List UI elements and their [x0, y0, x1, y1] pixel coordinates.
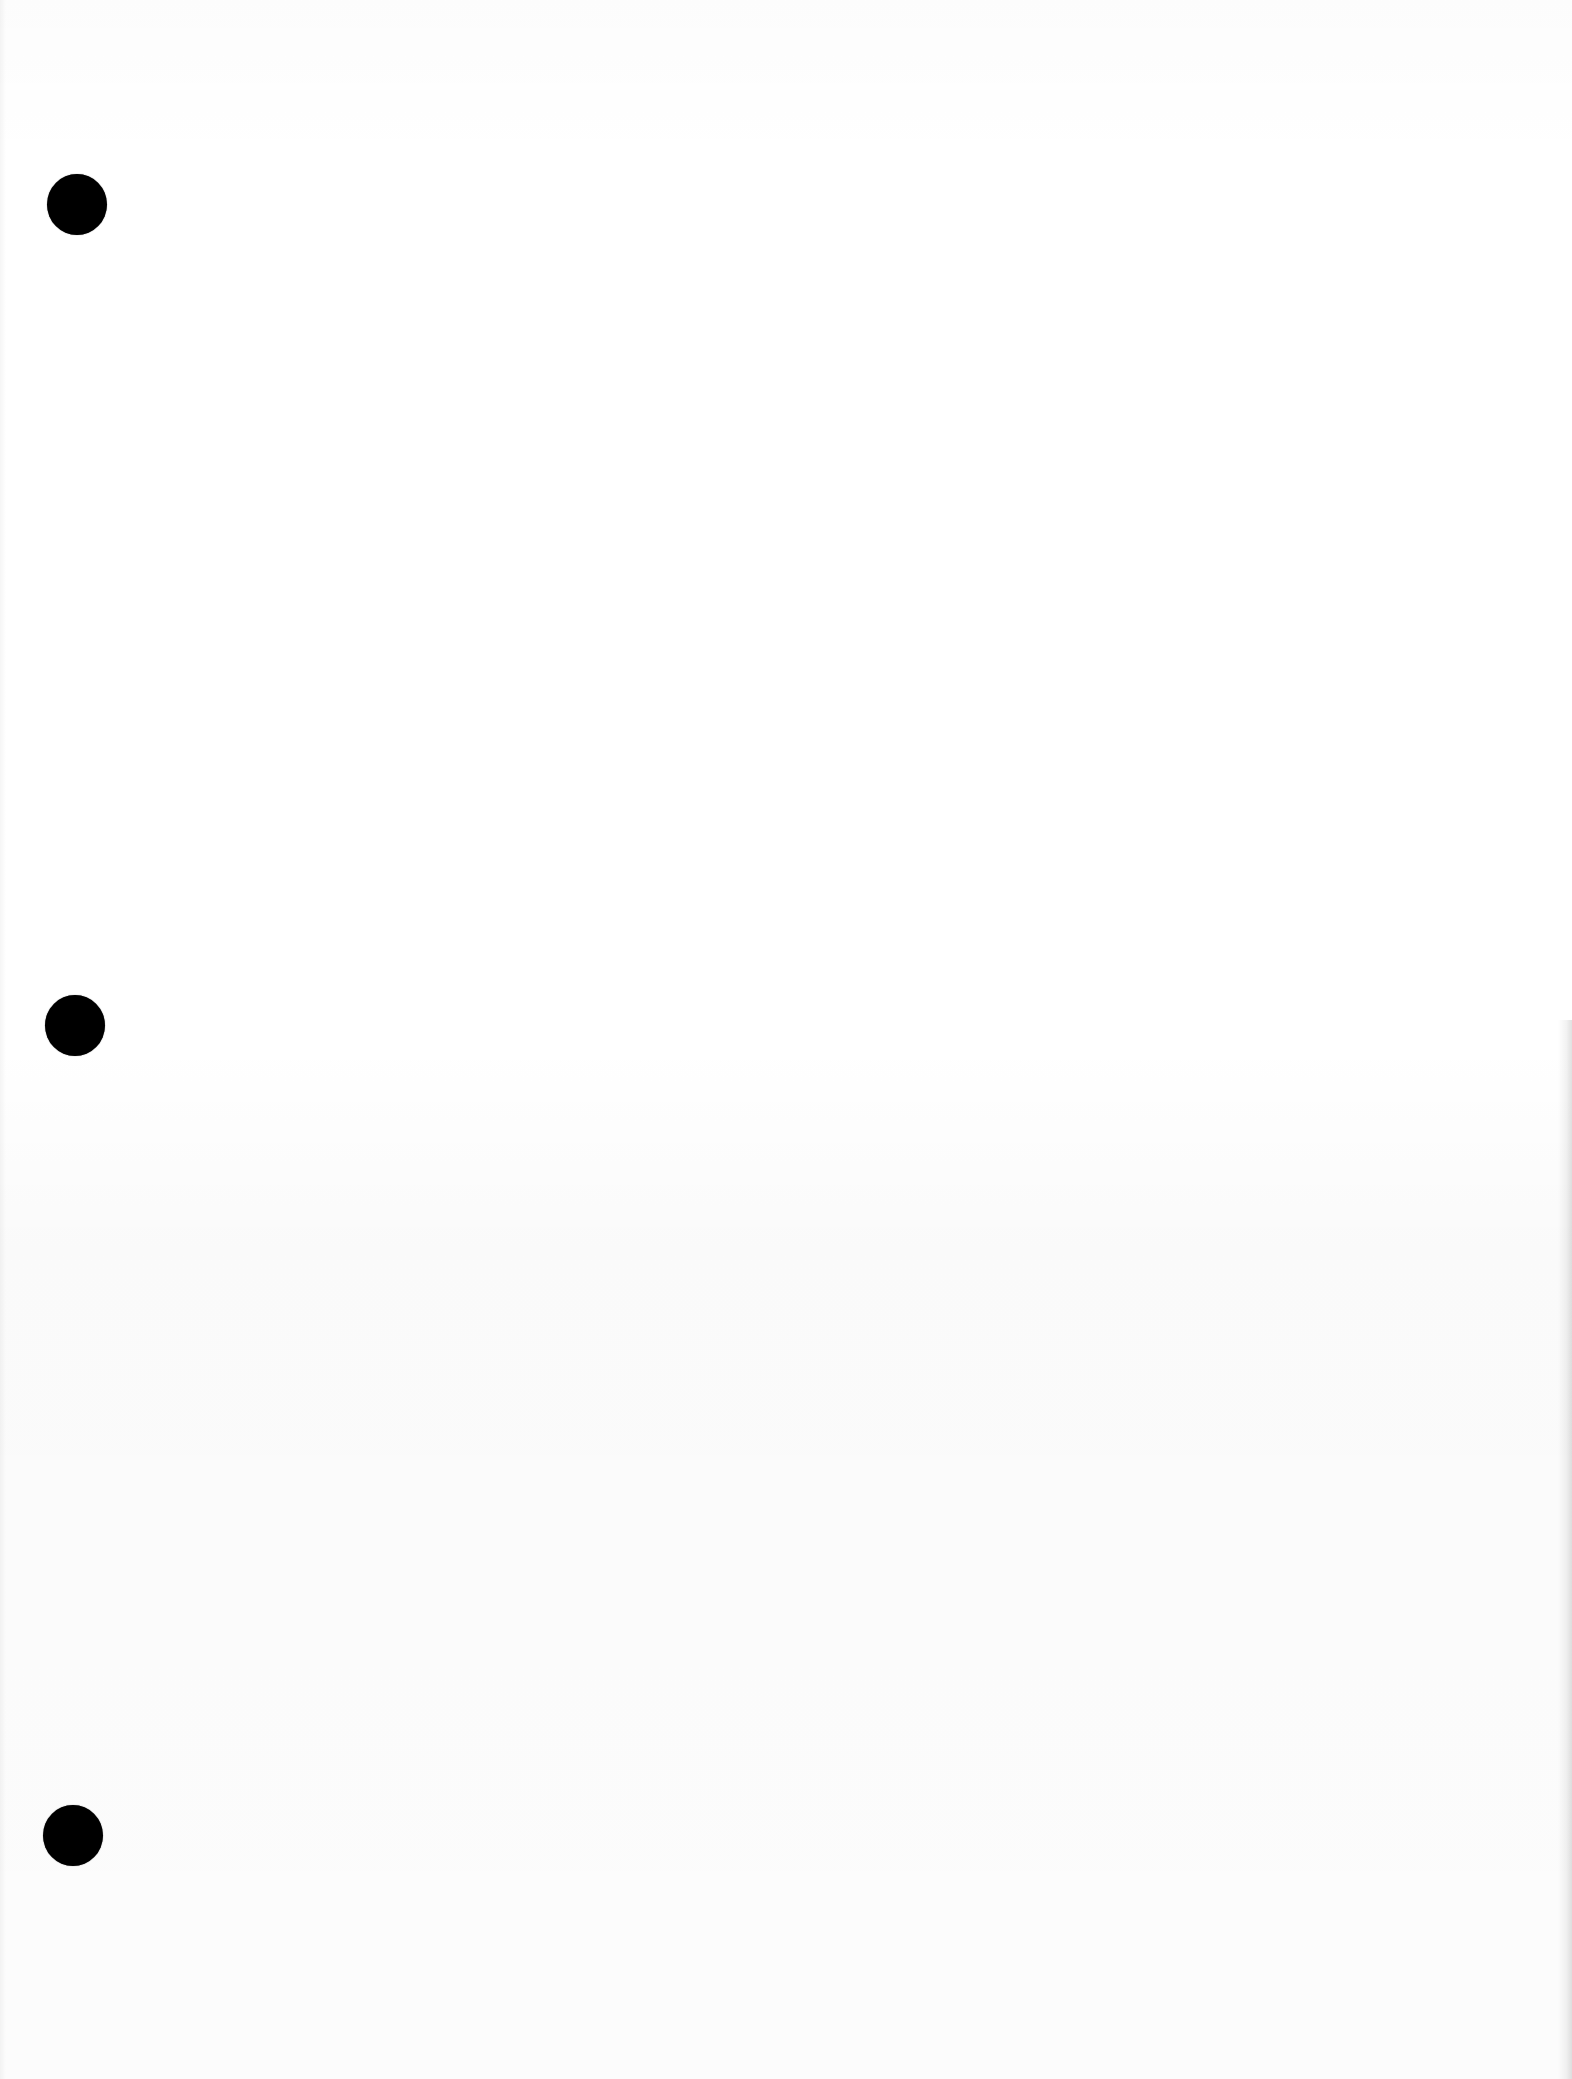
punch-hole-top	[47, 174, 107, 235]
punch-hole-middle	[45, 995, 105, 1056]
page-right-edge-shadow	[1558, 1020, 1572, 2079]
blank-document-page	[0, 0, 1572, 2079]
page-left-edge-shadow	[0, 0, 6, 2079]
punch-hole-bottom	[43, 1805, 103, 1866]
